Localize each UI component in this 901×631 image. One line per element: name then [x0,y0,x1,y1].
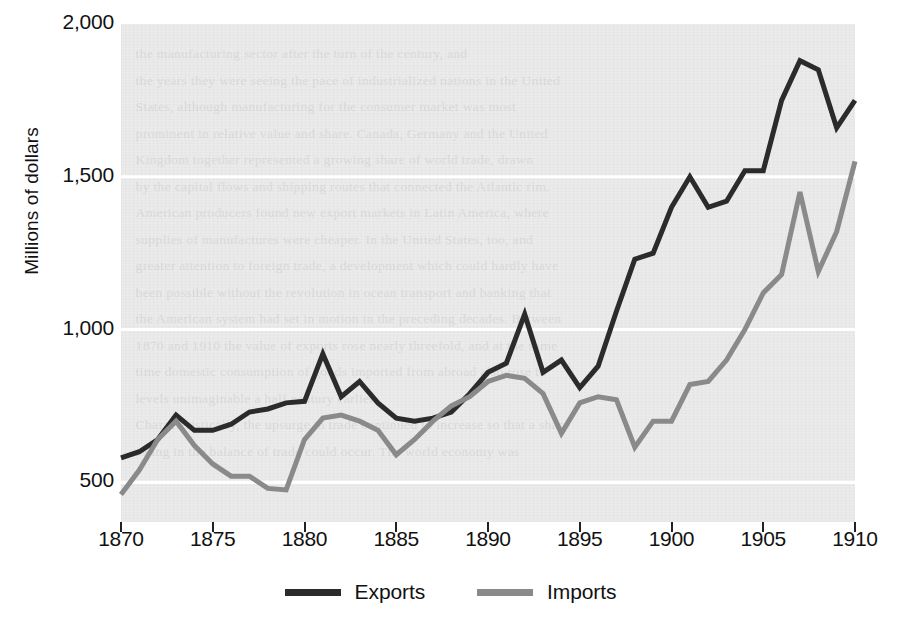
legend-swatch-icon [477,589,533,596]
x-tick-label: 1880 [270,527,340,551]
legend-swatch-icon [285,589,341,596]
y-tick-label: 500 [22,468,114,492]
legend-label: Imports [547,580,616,604]
chart-figure: Millions of dollars the manufacturing se… [0,0,901,631]
chart-legend: ExportsImports [0,580,901,604]
x-tick-label: 1870 [86,527,156,551]
data-series-layer [121,61,855,495]
legend-label: Exports [355,580,426,604]
x-tick-label: 1875 [178,527,248,551]
y-tick-label: 1,500 [22,163,114,187]
legend-item-exports[interactable]: Exports [285,580,426,604]
legend-item-imports[interactable]: Imports [477,580,616,604]
x-tick-label: 1905 [728,527,798,551]
series-line-exports [121,61,855,458]
x-tick-label: 1895 [545,527,615,551]
x-tick-label: 1900 [637,527,707,551]
gridlines [121,24,855,482]
y-axis-tick-labels: 5001,0001,5002,000 [14,0,114,560]
x-tick-label: 1910 [820,527,890,551]
y-tick-label: 2,000 [22,10,114,34]
x-tick-label: 1890 [453,527,523,551]
x-tick-label: 1885 [361,527,431,551]
y-tick-label: 1,000 [22,316,114,340]
